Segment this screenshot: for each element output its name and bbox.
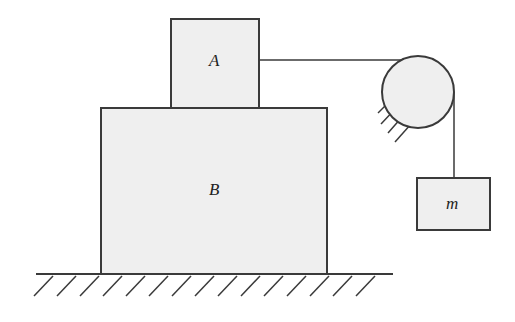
ground — [34, 274, 393, 296]
block-a: A — [171, 19, 259, 108]
pulley — [382, 56, 454, 128]
hanging-mass-label: m — [446, 194, 458, 213]
block-b: B — [101, 108, 327, 274]
block-a-label: A — [208, 51, 220, 70]
ground-hatching — [34, 276, 375, 296]
physics-diagram: B A m — [0, 0, 515, 322]
hanging-mass: m — [417, 178, 490, 230]
block-b-label: B — [209, 180, 220, 199]
